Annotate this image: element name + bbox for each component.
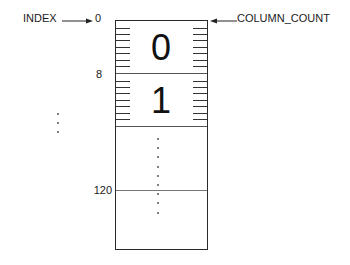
offset-start: 0 bbox=[95, 12, 101, 24]
offset-second: 8 bbox=[72, 68, 102, 80]
bit-tick bbox=[193, 28, 207, 29]
ellipsis-dot bbox=[157, 212, 159, 214]
ellipsis-dot bbox=[157, 166, 159, 168]
ellipsis-dot bbox=[157, 175, 159, 177]
cell-value-0: 0 bbox=[141, 30, 181, 66]
bit-tick bbox=[116, 40, 130, 41]
bit-tick bbox=[116, 106, 130, 107]
index-arrow-icon bbox=[62, 18, 94, 24]
offset-last: 120 bbox=[82, 184, 112, 196]
bit-tick bbox=[193, 100, 207, 101]
bit-tick bbox=[193, 40, 207, 41]
ellipsis-dot bbox=[157, 193, 159, 195]
ellipsis-dot bbox=[157, 202, 159, 204]
bit-tick bbox=[116, 119, 130, 120]
bit-tick bbox=[193, 87, 207, 88]
bit-tick bbox=[116, 93, 130, 94]
bit-tick bbox=[193, 53, 207, 54]
bit-tick bbox=[193, 81, 207, 82]
bit-tick bbox=[116, 66, 130, 67]
ellipsis-dot bbox=[157, 147, 159, 149]
bit-tick bbox=[193, 119, 207, 120]
ellipsis-dot bbox=[57, 113, 59, 115]
column-count-label: COLUMN_COUNT bbox=[237, 12, 330, 24]
bit-tick bbox=[116, 100, 130, 101]
column-count-arrow-icon bbox=[210, 18, 238, 24]
ellipsis-dot bbox=[57, 131, 59, 133]
bit-tick bbox=[193, 47, 207, 48]
bit-tick bbox=[193, 60, 207, 61]
last-cell-divider bbox=[116, 190, 207, 191]
bit-tick bbox=[116, 60, 130, 61]
bit-tick bbox=[116, 87, 130, 88]
index-label: INDEX bbox=[23, 12, 57, 24]
ellipsis-dot bbox=[157, 138, 159, 140]
bit-tick bbox=[116, 81, 130, 82]
bit-tick bbox=[193, 106, 207, 107]
bit-tick bbox=[116, 113, 130, 114]
cell-value-1: 1 bbox=[141, 83, 181, 119]
bit-tick bbox=[116, 47, 130, 48]
bit-tick bbox=[193, 34, 207, 35]
memory-block: 0 1 bbox=[115, 20, 208, 250]
bit-tick bbox=[116, 53, 130, 54]
cell-divider bbox=[116, 73, 207, 74]
bit-tick bbox=[193, 66, 207, 67]
ellipsis-dot bbox=[157, 156, 159, 158]
bit-tick bbox=[193, 93, 207, 94]
bit-tick bbox=[116, 34, 130, 35]
bit-tick bbox=[116, 28, 130, 29]
bit-tick bbox=[193, 113, 207, 114]
ellipsis-dot bbox=[157, 184, 159, 186]
ellipsis-dot bbox=[57, 122, 59, 124]
cell-divider bbox=[116, 126, 207, 127]
